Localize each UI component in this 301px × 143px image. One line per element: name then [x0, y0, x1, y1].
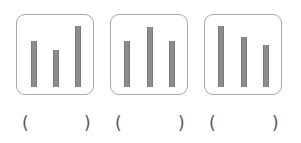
answer-2-open-paren: ( [115, 113, 122, 133]
bar [53, 50, 59, 87]
bar [241, 37, 247, 87]
bar [31, 41, 37, 87]
answer-1-open-paren: ( [22, 113, 29, 133]
bar [147, 27, 153, 87]
answer-1-blank[interactable] [32, 115, 82, 133]
answer-3-open-paren: ( [209, 113, 216, 133]
bar [169, 41, 175, 87]
bar [218, 26, 224, 87]
answer-1-close-paren: ) [84, 113, 91, 133]
panel-3 [204, 14, 282, 95]
bar [75, 26, 81, 87]
panel-2 [110, 14, 188, 95]
answer-2-blank[interactable] [125, 115, 175, 133]
panel-1 [16, 14, 94, 95]
bar [124, 41, 130, 87]
answer-3-close-paren: ) [272, 113, 279, 133]
answer-3-blank[interactable] [219, 115, 269, 133]
bar [263, 45, 269, 87]
answer-2-close-paren: ) [178, 113, 185, 133]
